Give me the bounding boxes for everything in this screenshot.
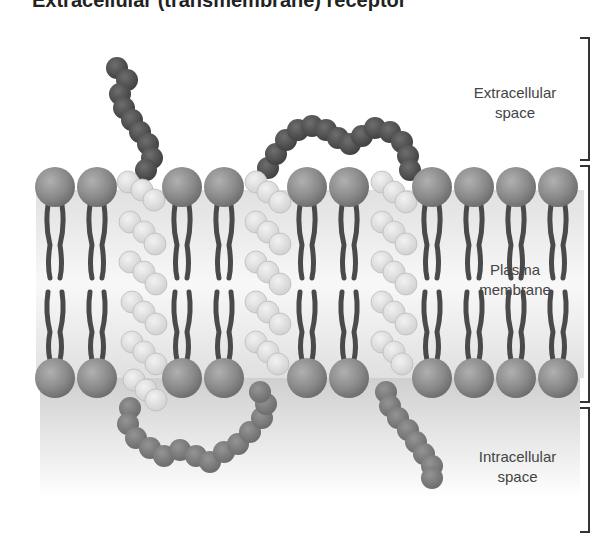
- membrane-bracket: [580, 165, 590, 403]
- extracellular-bracket: [580, 37, 590, 161]
- n-terminus-chain: [106, 57, 163, 181]
- plasma-membrane-label: Plasma membrane: [460, 260, 570, 300]
- intracellular-bracket: [580, 407, 590, 533]
- extracellular-space-label: Extracellular space: [455, 83, 575, 123]
- intracellular-space-label: Intracellular space: [455, 447, 580, 487]
